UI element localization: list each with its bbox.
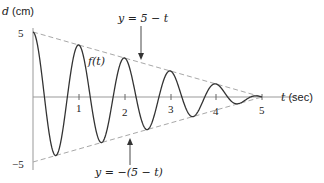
upper-envelope-label: y = 5 − t (117, 12, 169, 25)
x-tick-label-2: 2 (122, 106, 128, 118)
y-axis-title: d(cm) (2, 5, 34, 18)
damped-oscillation-chart: d(cm) 5 −5 1 2 3 4 5 t(sec) f(t) y = 5 −… (0, 0, 324, 183)
curve-label: f(t) (87, 55, 105, 68)
lower-envelope-label: y = −(5 − t) (94, 166, 163, 179)
y-tick-label-bottom: −5 (12, 158, 24, 170)
upper-annotation-arrow (138, 26, 144, 60)
lower-annotation-arrow (127, 138, 133, 165)
f-of-t-curve (33, 32, 262, 156)
upper-envelope-line (33, 32, 262, 97)
x-tick-label-5: 5 (259, 104, 265, 116)
x-tick-label-3: 3 (168, 103, 174, 115)
y-tick-label-top: 5 (18, 27, 24, 39)
x-tick-label-1: 1 (76, 102, 82, 114)
x-tick-label-4: 4 (213, 105, 219, 117)
